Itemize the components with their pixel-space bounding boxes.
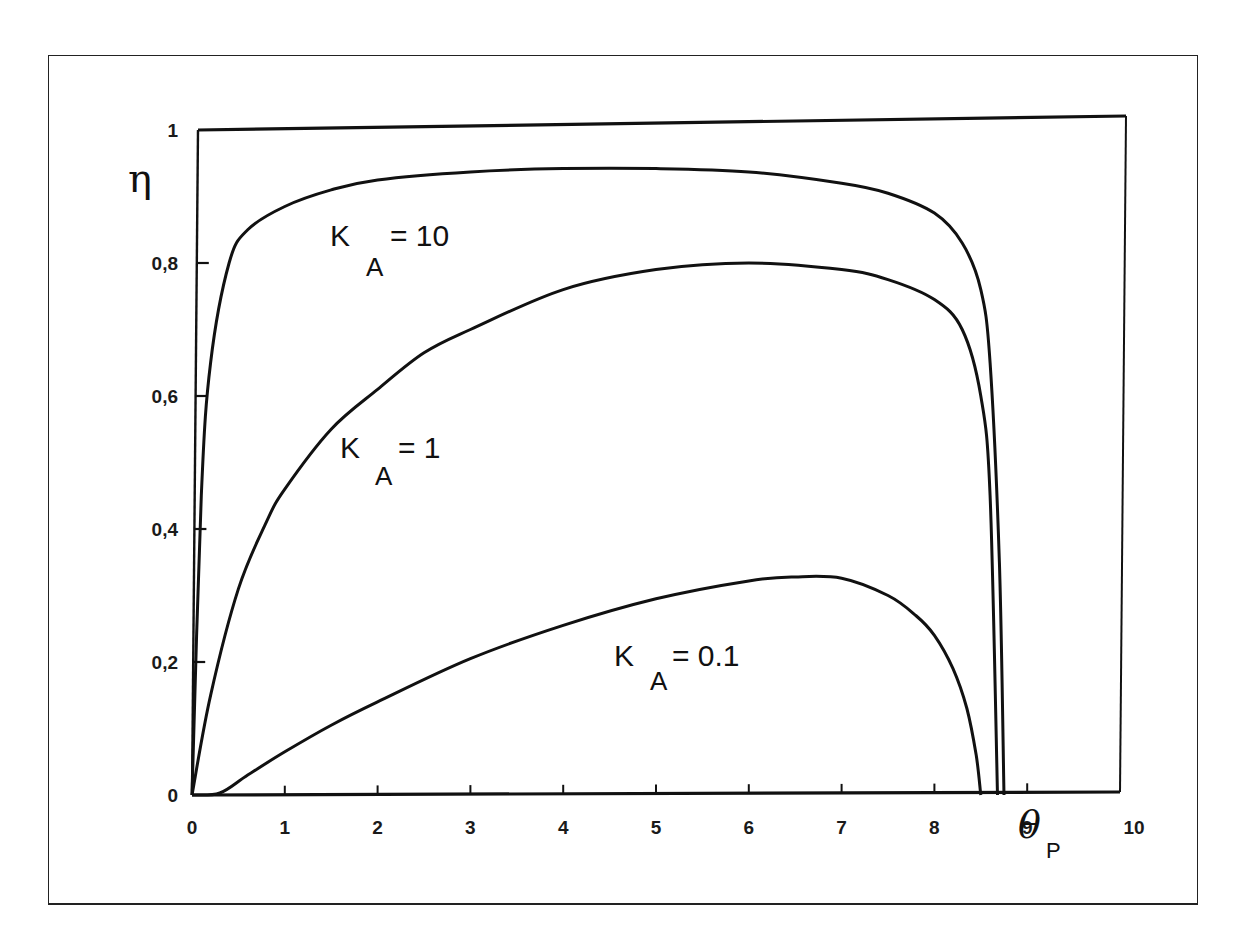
y-tick-label: 0,2 — [152, 652, 178, 673]
x-axis-label: θ P — [1018, 803, 1061, 863]
efficiency-chart: 01234567891000,20,40,60,81 η θ P K A = 1… — [0, 0, 1249, 947]
annotation-value: = 1 — [398, 431, 441, 464]
annotation-k: K — [340, 431, 360, 464]
axis-ticks — [193, 263, 1027, 795]
x-tick-label: 0 — [187, 817, 198, 838]
annotation-ka-0.1: K A = 0.1 — [614, 639, 740, 696]
reference-line-eta-1 — [198, 116, 1126, 130]
annotation-ka-1: K A = 1 — [340, 431, 441, 491]
annotation-value: = 0.1 — [672, 639, 740, 672]
annotation-sub: A — [366, 252, 384, 282]
y-tick-label: 0,8 — [152, 253, 178, 274]
annotation-ka-10: K A = 10 — [330, 219, 449, 282]
theta-symbol: θ — [1018, 803, 1041, 847]
annotation-k: K — [330, 219, 350, 252]
x-tick-label: 7 — [836, 817, 847, 838]
curve-series-2 — [192, 576, 981, 795]
annotation-sub: A — [375, 461, 393, 491]
x-tick-label: 4 — [558, 817, 569, 838]
annotation-sub: A — [650, 666, 668, 696]
x-tick-label: 2 — [372, 817, 383, 838]
y-tick-label: 0 — [167, 785, 178, 806]
theta-subscript: P — [1046, 838, 1061, 863]
y-tick-label: 0,4 — [152, 519, 179, 540]
x-tick-label: 10 — [1123, 817, 1144, 838]
curve-series-1 — [192, 263, 998, 795]
x-tick-label: 8 — [929, 817, 940, 838]
x-tick-label: 3 — [465, 817, 476, 838]
y-tick-label: 0,6 — [152, 386, 178, 407]
annotation-k: K — [614, 639, 634, 672]
y-tick-label: 1 — [167, 120, 178, 141]
x-tick-label: 1 — [280, 817, 291, 838]
x-tick-label: 6 — [744, 817, 755, 838]
x-tick-label: 5 — [651, 817, 662, 838]
y-axis-label: η — [128, 155, 152, 201]
right-axis-line — [1120, 116, 1126, 792]
curves — [192, 168, 1004, 795]
annotation-value: = 10 — [390, 219, 449, 252]
curve-series-0 — [192, 168, 1004, 795]
